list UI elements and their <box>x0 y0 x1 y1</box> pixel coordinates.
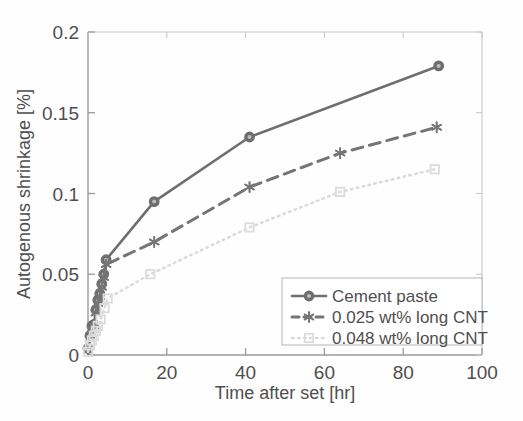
chart-figure: 020406080100 00.050.10.150.2 Time after … <box>0 0 523 421</box>
y-tick-label: 0.15 <box>42 103 79 124</box>
y-tick-label: 0.05 <box>42 264 79 285</box>
marker-inner <box>307 294 311 298</box>
legend-label: Cement paste <box>332 287 438 306</box>
y-axis-tick-labels: 00.050.10.150.2 <box>42 22 79 366</box>
y-tick-label: 0.1 <box>53 184 79 205</box>
legend-label: 0.048 wt% long CNT <box>332 329 488 348</box>
legend: Cement paste0.025 wt% long CNT0.048 wt% … <box>282 278 488 348</box>
x-tick-label: 60 <box>314 362 335 383</box>
legend-label: 0.025 wt% long CNT <box>332 308 488 327</box>
x-tick-label: 0 <box>83 362 94 383</box>
x-tick-label: 80 <box>393 362 414 383</box>
y-axis-title: Autogenous shrinkage [%] <box>14 89 34 299</box>
x-axis-title: Time after set [hr] <box>215 383 355 403</box>
autogenous-shrinkage-line-chart: 020406080100 00.050.10.150.2 Time after … <box>0 0 523 421</box>
x-tick-label: 40 <box>235 362 256 383</box>
marker-inner <box>437 64 441 68</box>
marker-star <box>150 237 159 247</box>
x-tick-label: 100 <box>466 362 498 383</box>
marker-star <box>432 122 441 132</box>
y-tick-label: 0.2 <box>53 22 79 43</box>
x-tick-label: 20 <box>156 362 177 383</box>
marker-inner <box>248 135 252 139</box>
marker-inner <box>152 200 156 204</box>
y-tick-label: 0 <box>68 345 79 366</box>
x-axis-tick-labels: 020406080100 <box>83 362 498 383</box>
